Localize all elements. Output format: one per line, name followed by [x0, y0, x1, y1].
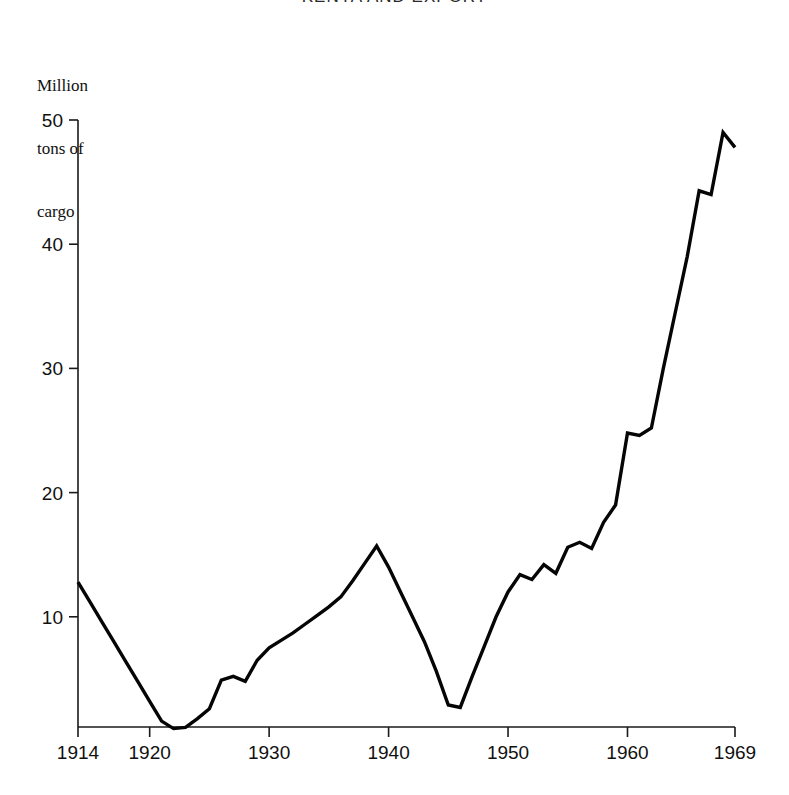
y-tick-label: 10 — [42, 607, 63, 628]
y-tick-label: 20 — [42, 483, 63, 504]
x-tick-label: 1940 — [367, 742, 409, 763]
plot-area: 1020304050 1914192019301940195019601969 — [0, 0, 789, 795]
x-tick-label: 1950 — [487, 742, 529, 763]
y-tick-label: 30 — [42, 358, 63, 379]
y-axis-ticks: 1020304050 — [42, 110, 78, 628]
y-tick-label: 40 — [42, 234, 63, 255]
data-series-line — [78, 132, 735, 728]
x-axis-ticks: 1914192019301940195019601969 — [57, 727, 756, 763]
x-tick-label: 1914 — [57, 742, 100, 763]
x-tick-label: 1960 — [606, 742, 648, 763]
x-tick-label: 1930 — [248, 742, 290, 763]
chart-figure: KENYA AND EXPORT Million tons of cargo 1… — [0, 0, 789, 795]
x-tick-label: 1969 — [714, 742, 756, 763]
y-tick-label: 50 — [42, 110, 63, 131]
x-tick-label: 1920 — [129, 742, 171, 763]
